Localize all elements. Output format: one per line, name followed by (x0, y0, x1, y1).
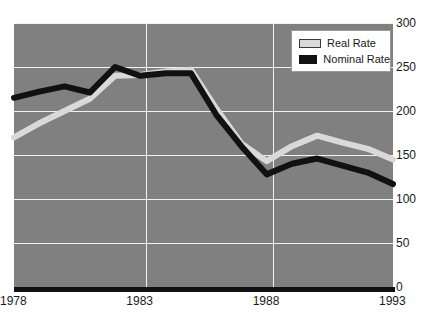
real-rate-swatch-icon (299, 39, 321, 48)
clipped-title-sliver (0, 0, 431, 10)
legend-label-real-rate: Real Rate (327, 38, 376, 49)
x-axis-tick-labels: 1978198319881993 (0, 294, 431, 312)
nominal-rate-swatch-icon (299, 55, 317, 64)
real-rate-line (14, 70, 393, 162)
y-axis-tick-50: 50 (396, 237, 409, 249)
y-axis-tick-0: 0 (396, 281, 403, 293)
y-axis-tick-200: 200 (396, 105, 416, 117)
y-axis-tick-300: 300 (396, 17, 416, 29)
x-axis-tick-1978: 1978 (0, 294, 27, 308)
chart-legend: Real Rate Nominal Rate (291, 30, 391, 72)
y-axis-tick-150: 150 (396, 149, 416, 161)
chart-screenshot: 050100150200250300 1978198319881993 Real… (0, 0, 431, 315)
x-axis-tick-1993: 1993 (379, 294, 406, 308)
y-axis-tick-labels: 050100150200250300 (396, 23, 431, 287)
legend-label-nominal-rate: Nominal Rate (323, 54, 390, 65)
x-axis-tick-1983: 1983 (126, 294, 153, 308)
legend-item-nominal-rate: Nominal Rate (299, 54, 390, 65)
legend-item-real-rate: Real Rate (299, 38, 390, 49)
x-axis-tick-1988: 1988 (253, 294, 280, 308)
x-axis-baseline (14, 287, 395, 292)
y-axis-tick-100: 100 (396, 193, 416, 205)
y-axis-tick-250: 250 (396, 61, 416, 73)
